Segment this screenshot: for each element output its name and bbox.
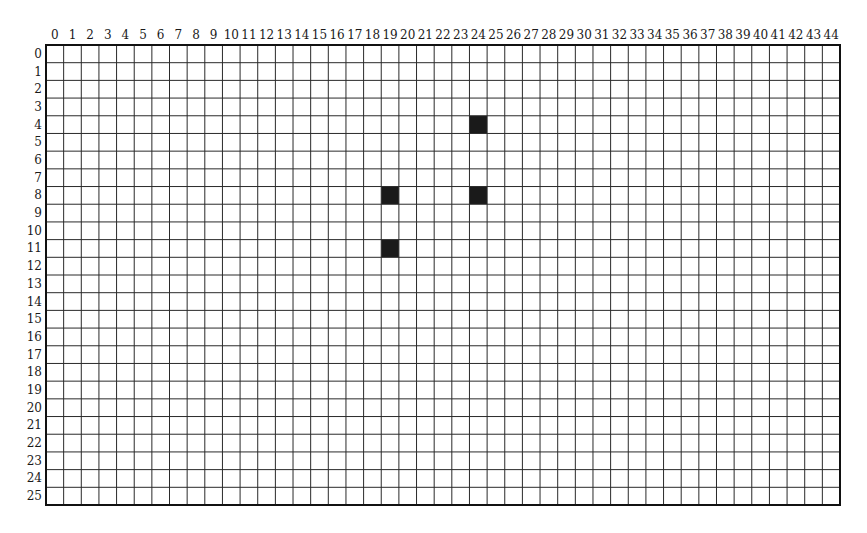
row-label: 8 xyxy=(34,188,42,202)
coordinate-grid: 0123456789101112131415161718192021222324… xyxy=(0,0,867,533)
column-label: 37 xyxy=(700,28,715,42)
column-label: 27 xyxy=(524,28,539,42)
column-label: 10 xyxy=(224,28,239,42)
column-label: 28 xyxy=(541,28,556,42)
column-label: 20 xyxy=(400,28,415,42)
row-label: 2 xyxy=(34,82,42,96)
column-label: 25 xyxy=(488,28,503,42)
row-label: 19 xyxy=(27,383,42,397)
column-label: 21 xyxy=(418,28,433,42)
row-label: 5 xyxy=(34,135,42,149)
column-label: 23 xyxy=(453,28,468,42)
row-label: 7 xyxy=(34,171,42,185)
row-label: 22 xyxy=(27,436,42,450)
filled-cell xyxy=(469,187,487,205)
column-label: 17 xyxy=(347,28,362,42)
row-label: 21 xyxy=(27,418,42,432)
column-label: 30 xyxy=(577,28,592,42)
column-label: 38 xyxy=(718,28,733,42)
column-labels: 0123456789101112131415161718192021222324… xyxy=(51,28,839,42)
column-label: 11 xyxy=(241,28,256,42)
column-label: 29 xyxy=(559,28,574,42)
column-label: 41 xyxy=(771,28,786,42)
row-label: 1 xyxy=(34,65,42,79)
column-label: 24 xyxy=(471,28,487,42)
column-label: 35 xyxy=(665,28,680,42)
column-label: 12 xyxy=(259,28,274,42)
row-label: 9 xyxy=(34,206,42,220)
row-label: 16 xyxy=(27,330,42,344)
column-label: 14 xyxy=(294,28,310,42)
row-label: 12 xyxy=(27,259,42,273)
row-label: 4 xyxy=(34,118,42,132)
column-label: 7 xyxy=(175,28,183,42)
column-label: 13 xyxy=(277,28,292,42)
row-label: 3 xyxy=(34,100,42,114)
column-label: 1 xyxy=(69,28,77,42)
column-label: 43 xyxy=(806,28,821,42)
column-label: 6 xyxy=(157,28,165,42)
column-label: 39 xyxy=(735,28,750,42)
column-label: 15 xyxy=(312,28,327,42)
column-label: 16 xyxy=(329,28,344,42)
row-label: 23 xyxy=(27,454,42,468)
row-label: 17 xyxy=(27,348,42,362)
filled-cell xyxy=(381,187,399,205)
column-label: 32 xyxy=(612,28,627,42)
column-label: 40 xyxy=(753,28,768,42)
row-label: 11 xyxy=(27,241,42,255)
column-label: 22 xyxy=(435,28,450,42)
column-label: 33 xyxy=(629,28,644,42)
column-label: 3 xyxy=(104,28,112,42)
column-label: 44 xyxy=(824,28,840,42)
column-label: 5 xyxy=(139,28,147,42)
filled-cell xyxy=(469,116,487,134)
row-label: 10 xyxy=(27,224,42,238)
row-labels: 0123456789101112131415161718192021222324… xyxy=(27,47,43,503)
column-label: 42 xyxy=(788,28,803,42)
row-label: 15 xyxy=(27,312,42,326)
row-label: 20 xyxy=(27,401,42,415)
row-label: 6 xyxy=(34,153,42,167)
column-label: 9 xyxy=(210,28,218,42)
row-label: 24 xyxy=(27,471,43,485)
row-label: 13 xyxy=(27,277,42,291)
row-label: 14 xyxy=(27,295,43,309)
column-label: 4 xyxy=(122,28,130,42)
column-label: 18 xyxy=(365,28,380,42)
column-label: 0 xyxy=(51,28,59,42)
column-label: 19 xyxy=(382,28,397,42)
row-label: 25 xyxy=(27,489,42,503)
row-label: 18 xyxy=(27,365,42,379)
row-label: 0 xyxy=(34,47,42,61)
grid-lines xyxy=(46,45,840,505)
column-label: 36 xyxy=(682,28,697,42)
column-label: 26 xyxy=(506,28,521,42)
column-label: 2 xyxy=(86,28,94,42)
column-label: 31 xyxy=(594,28,609,42)
column-label: 34 xyxy=(647,28,663,42)
filled-cell xyxy=(381,240,399,258)
column-label: 8 xyxy=(192,28,200,42)
